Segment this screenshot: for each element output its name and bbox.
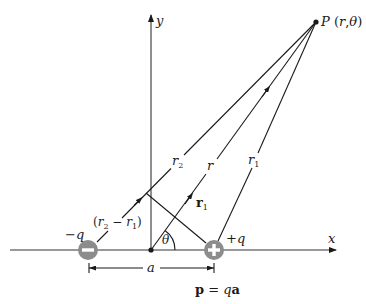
y-axis-label: y <box>155 13 164 28</box>
negative-charge <box>78 240 98 260</box>
r1-vector-label: r1 <box>196 195 208 212</box>
r2-line-upper <box>184 22 316 155</box>
point-p-dot <box>313 19 318 24</box>
theta-label: θ <box>162 233 170 247</box>
r2-label: r2 <box>172 153 183 170</box>
origin-dot <box>148 247 153 252</box>
dimension-label: a <box>147 260 155 275</box>
r2-minus-r1-label: (r2 − r1) <box>93 215 142 231</box>
r-arrow <box>262 89 268 98</box>
negative-charge-label: −q <box>65 227 84 242</box>
positive-charge <box>204 240 224 260</box>
r1-label: r1 <box>248 152 259 169</box>
r1-line-upper <box>258 22 316 153</box>
diff-leader-line <box>97 231 108 242</box>
positive-charge-label: +q <box>226 231 245 246</box>
r1-vector-arrow <box>185 196 191 205</box>
r2-minus-r1-arrow <box>134 200 140 206</box>
dipole-formula: p = qa <box>195 282 241 297</box>
dipole-diagram: x y θ P (r,θ) r2 r r1 r1 (r2 − r1) −q <box>0 0 366 304</box>
point-p-label: P (r,θ) <box>320 14 362 29</box>
x-axis-label: x <box>328 231 336 246</box>
r-line-lower <box>151 174 206 250</box>
r-label: r <box>207 158 214 173</box>
